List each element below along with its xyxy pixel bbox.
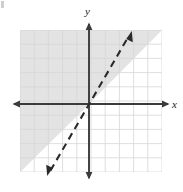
corner-mark: [1, 1, 4, 8]
y-axis-arrow-up: [86, 23, 93, 31]
y-axis-label: y: [85, 6, 90, 17]
coordinate-plane-figure: [0, 0, 183, 192]
x-axis-arrow-left: [13, 101, 21, 108]
x-axis-arrow-right: [162, 101, 170, 108]
y-axis-arrow-down: [86, 172, 93, 180]
x-axis-label: x: [172, 99, 177, 110]
